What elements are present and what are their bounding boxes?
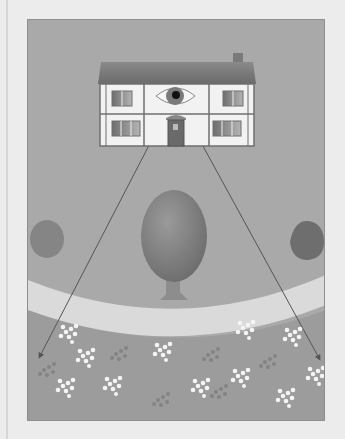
- door: [168, 120, 184, 146]
- right-bush: [290, 221, 324, 260]
- page-edge-line: [6, 0, 8, 439]
- left-bush: [30, 220, 64, 258]
- window: [213, 121, 241, 136]
- house: [98, 53, 256, 146]
- scene-illustration: [28, 20, 325, 421]
- window: [112, 121, 140, 136]
- central-tree: [141, 190, 207, 300]
- illustration-panel: [27, 19, 325, 421]
- roof: [98, 62, 256, 84]
